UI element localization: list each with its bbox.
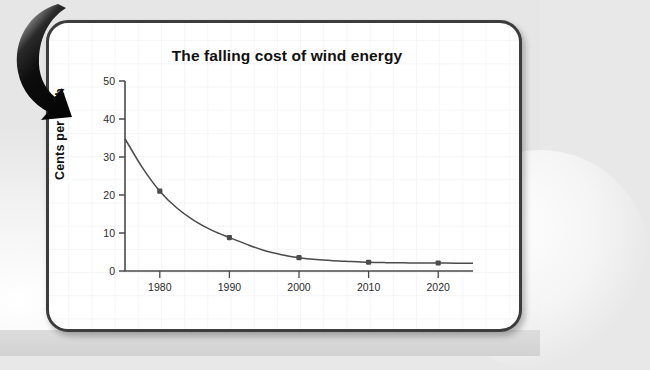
svg-text:1990: 1990 <box>218 281 242 293</box>
y-axis-ticks: 01020304050 <box>103 75 125 277</box>
svg-text:2020: 2020 <box>427 281 451 293</box>
svg-text:2000: 2000 <box>287 281 311 293</box>
svg-text:50: 50 <box>103 75 115 87</box>
data-point-markers <box>157 189 441 266</box>
line-chart-plot: 01020304050 19801990200020102020 <box>49 23 522 332</box>
svg-text:20: 20 <box>103 189 115 201</box>
chart-axes <box>125 81 473 271</box>
svg-text:1980: 1980 <box>148 281 172 293</box>
svg-text:0: 0 <box>109 265 115 277</box>
svg-text:2010: 2010 <box>357 281 381 293</box>
cost-trend-curve <box>125 139 473 263</box>
y-axis-title: Cents per KWh <box>53 59 67 209</box>
chart-slide-card: The falling cost of wind energy 01020304… <box>46 20 522 332</box>
x-axis-ticks: 19801990200020102020 <box>148 271 450 293</box>
svg-text:40: 40 <box>103 113 115 125</box>
svg-text:10: 10 <box>103 227 115 239</box>
background-bottom-band <box>0 330 540 356</box>
svg-text:30: 30 <box>103 151 115 163</box>
x-axis-title: Year <box>49 329 522 332</box>
